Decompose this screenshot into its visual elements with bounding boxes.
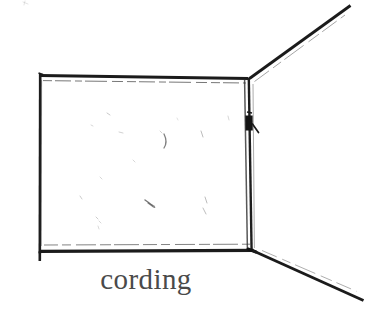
figure-canvas: cording <box>0 0 386 314</box>
line-drawing <box>0 0 386 314</box>
left-edge-line <box>40 74 42 261</box>
figure-background <box>0 0 386 314</box>
